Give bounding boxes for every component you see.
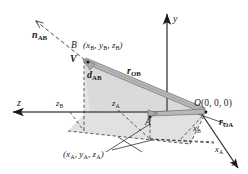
point-a-coordinates: (xA, yA, zA): [63, 150, 104, 159]
x-b-tick-label: xB: [193, 124, 201, 133]
v-vector-label: V: [70, 54, 77, 64]
diagram-graphics: [0, 0, 248, 174]
leader-coord-to-ground: [112, 140, 152, 150]
n-ab-dashed-ray: [36, 21, 90, 64]
z-axis-label: z: [17, 98, 21, 108]
x-axis-label: x: [232, 158, 237, 168]
origin-marker: [205, 111, 208, 114]
diagram-canvas: nAB B (xB, yB, zB) V dAB rOB y z x zB zA…: [0, 0, 248, 174]
z-a-tick-label: zA: [112, 99, 120, 108]
point-b-marker: [86, 60, 89, 63]
r-oa-vector-label: rOA: [219, 117, 233, 127]
point-b-label: B: [71, 41, 77, 51]
point-b-coordinates: (xB, yB, zB): [83, 41, 123, 50]
shaded-plane-ground: [68, 112, 206, 144]
z-b-tick-label: zB: [56, 99, 63, 108]
d-ab-vector-label: dAB: [87, 70, 102, 80]
origin-label: O(0, 0, 0): [194, 99, 232, 109]
r-ob-vector-label: rOB: [127, 66, 141, 76]
x-a-tick-label: xA: [215, 145, 223, 154]
leader-coord-up: [118, 137, 142, 152]
y-axis-label: y: [173, 14, 178, 24]
point-a-label: A: [145, 118, 151, 128]
n-ab-vector-label: nAB: [32, 30, 47, 40]
